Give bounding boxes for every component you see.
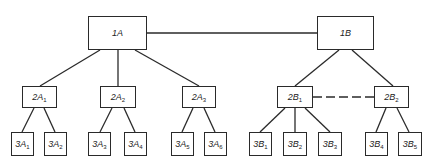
edge-1B-2B1: [295, 50, 339, 86]
node-3A5: 3A5: [171, 132, 194, 156]
node-label: 1A: [112, 28, 123, 39]
node-label: 3A5: [175, 139, 189, 150]
node-label: 3B1: [253, 139, 267, 150]
node-2A3: 2A3: [182, 86, 216, 108]
node-label: 3B5: [403, 139, 417, 150]
node-label: 3A3: [92, 139, 106, 150]
node-label: 1B: [340, 28, 351, 39]
node-2A1: 2A1: [22, 86, 57, 108]
edge-2A3-3A5: [182, 108, 193, 132]
node-label: 2A2: [111, 92, 125, 103]
edge-2A1-3A2: [44, 108, 55, 132]
edge-1B-2B2: [352, 50, 393, 86]
node-label: 3B4: [369, 139, 383, 150]
node-2A2: 2A2: [100, 86, 136, 108]
node-3A3: 3A3: [88, 132, 111, 156]
node-3B5: 3B5: [398, 132, 422, 156]
edge-1A-2A3: [135, 50, 199, 86]
edge-2B2-3B5: [397, 108, 409, 132]
edge-2A2-3A3: [100, 108, 112, 132]
node-3B4: 3B4: [365, 132, 388, 156]
node-label: 2B1: [288, 92, 302, 103]
node-label: 3A1: [15, 139, 29, 150]
node-3A6: 3A6: [204, 132, 227, 156]
node-label: 3B2: [288, 139, 302, 150]
node-3A4: 3A4: [124, 132, 147, 156]
edge-2B1-3B1: [260, 108, 285, 132]
node-label: 3B3: [323, 139, 337, 150]
node-3A2: 3A2: [44, 132, 67, 156]
edge-2B2-3B4: [376, 108, 386, 132]
node-2B2: 2B2: [374, 86, 409, 108]
node-label: 2A3: [192, 92, 206, 103]
node-1B: 1B: [317, 16, 374, 50]
node-3A1: 3A1: [11, 132, 34, 156]
edge-1A-2A1: [40, 50, 100, 86]
node-label: 2B2: [384, 92, 398, 103]
edge-2A1-3A1: [22, 108, 34, 132]
node-3B3: 3B3: [318, 132, 342, 156]
node-1A: 1A: [88, 16, 147, 50]
node-label: 3A2: [48, 139, 62, 150]
edge-2A2-3A4: [124, 108, 135, 132]
node-label: 2A1: [32, 92, 46, 103]
node-3B1: 3B1: [249, 132, 272, 156]
edge-2A3-3A6: [204, 108, 215, 132]
node-label: 3A6: [208, 139, 222, 150]
node-3B2: 3B2: [283, 132, 307, 156]
node-2B1: 2B1: [277, 86, 313, 108]
node-label: 3A4: [128, 139, 142, 150]
edge-2B1-3B3: [305, 108, 330, 132]
